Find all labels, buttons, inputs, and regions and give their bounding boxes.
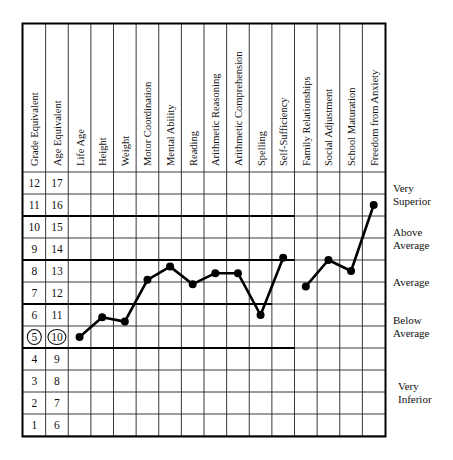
band-label-below-2: Average [393,327,430,339]
data-point-social-adjustment[interactable]: Social Adjustment: grade 8.5 / age 13.5 [324,256,332,264]
band-label-very-1: Very [398,380,419,392]
row-grade-value: 11 [29,199,40,211]
row-grade-value: 7 [31,287,37,299]
row-age-value: 6 [54,419,60,431]
data-point-life-age[interactable]: Life Age: grade 5 / age 10 [76,333,84,341]
band-label-very-2: Inferior [398,393,432,405]
row-grade-value: 12 [29,177,41,189]
data-point-weight[interactable]: Weight: grade 5.7 / age 10.7 [121,318,129,326]
data-point-arithmetic-reasoning[interactable]: Arithmetic Reasoning: grade 7.9 / age 12… [211,269,219,277]
column-header-freedom-from-anxiety: Freedom from Anxiety [369,69,380,166]
row-age-value: 16 [51,199,63,211]
column-header-life-age: Life Age [75,129,86,166]
row-grade-value: 10 [29,221,41,233]
band-label-very-2: Superior [393,195,431,207]
profile-chart-svg: Grade EquivalentAge EquivalentLife AgeHe… [0,0,453,460]
column-header-grade-equivalent: Grade Equivalent [29,92,40,166]
column-header-arithmetic-comprehension: Arithmetic Comprehension [233,51,244,166]
band-label-above-2: Average [393,239,430,251]
row-age-value: 15 [51,221,63,233]
data-point-arithmetic-comprehension[interactable]: Arithmetic Comprehension: grade 7.9 / ag… [234,269,242,277]
row-grade-value: 3 [31,375,37,387]
data-point-family-relationships[interactable]: Family Relationships: grade 7.3 / age 12… [302,282,310,290]
column-header-arithmetic-reasoning: Arithmetic Reasoning [210,73,221,166]
row-age-value: 12 [51,287,63,299]
column-header-mental-ability: Mental Ability [165,104,176,166]
band-label-average-1: Average [393,276,430,288]
data-point-mental-ability[interactable]: Mental Ability: grade 8.2 / age 13.2 [166,263,174,271]
row-grade-value: 8 [31,265,37,277]
column-header-self-sufficiency: Self-Sufficiency [278,97,289,166]
row-grade-value: 2 [31,397,37,409]
column-header-spelling: Spelling [256,130,267,166]
column-header-school-maturation: School Maturation [346,87,357,166]
column-header-reading: Reading [188,130,199,166]
column-header-motor-coordination: Motor Coordination [142,81,153,166]
row-age-value: 11 [51,309,62,321]
profile-chart: Grade EquivalentAge EquivalentLife AgeHe… [0,0,453,460]
data-point-motor-coordination[interactable]: Motor Coordination: grade 7.6 / age 12.6 [143,276,151,284]
row-age-value: 10 [51,331,63,343]
band-label-above-1: Above [393,226,422,238]
row-grade-value: 5 [31,331,37,343]
row-grade-value: 6 [31,309,37,321]
data-point-freedom-from-anxiety[interactable]: Freedom from Anxiety: grade 11 / age 16 [370,201,378,209]
column-header-weight: Weight [120,136,131,166]
row-age-value: 14 [51,243,63,255]
row-grade-value: 1 [31,419,37,431]
row-age-value: 9 [54,353,60,365]
data-point-spelling[interactable]: Spelling: grade 6 / age 11 [257,311,265,319]
column-header-age-equivalent: Age Equivalent [52,100,63,166]
row-age-value: 7 [54,397,60,409]
data-point-self-sufficiency[interactable]: Self-Sufficiency: grade 8.6 / age 13.6 [279,254,287,262]
column-header-family-relationships: Family Relationships [301,76,312,166]
column-header-height: Height [97,137,108,166]
row-age-value: 8 [54,375,60,387]
band-label-very-1: Very [393,182,414,194]
row-age-value: 13 [51,265,63,277]
row-grade-value: 4 [31,353,37,365]
data-point-height[interactable]: Height: grade 5.9 / age 10.9 [98,313,106,321]
row-grade-value: 9 [31,243,37,255]
row-age-value: 17 [51,177,63,189]
band-label-below-1: Below [393,314,422,326]
data-point-reading[interactable]: Reading: grade 7.4 / age 12.4 [189,280,197,288]
column-header-social-adjustment: Social Adjustment [323,89,334,166]
data-point-school-maturation[interactable]: School Maturation: grade 8 / age 13 [347,267,355,275]
